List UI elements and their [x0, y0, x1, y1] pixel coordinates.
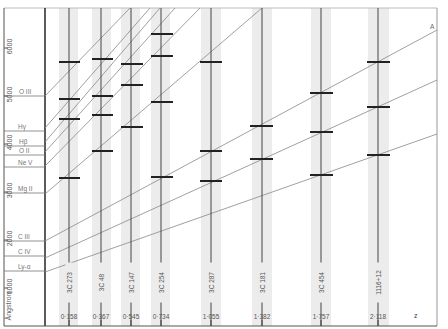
line-label-o-iii: O III — [19, 88, 31, 95]
x-axis-label: z — [414, 312, 418, 319]
quasar-name-3c48: 3C 48 — [98, 263, 105, 303]
y-tick-label-4000: 4000 — [6, 130, 13, 156]
line-tag-a: A — [430, 23, 434, 30]
quasar-name-1116-12: 1116+12 — [375, 263, 382, 303]
z-value-3c454: 1·757 — [306, 313, 336, 320]
line-label-h-gamma: Hγ — [18, 123, 26, 130]
line-label-mg-ii: Mg II — [18, 185, 32, 192]
z-value-3c147: 0·545 — [116, 313, 146, 320]
y-tick-label-5000: 5000 — [6, 82, 13, 108]
redshift-figure: 6000 5000 4000 3000 2000 1000 Ångstrom O… — [0, 0, 448, 329]
z-value-3c181: 1·382 — [247, 313, 277, 320]
y-tick-label-2000: 2000 — [6, 226, 13, 252]
quasar-name-3c454: 3C 454 — [318, 263, 325, 303]
quasar-name-3c181: 3C 181 — [259, 263, 266, 303]
quasar-name-3c254: 3C 254 — [158, 263, 165, 303]
z-value-1116-12: 2·118 — [363, 313, 393, 320]
quasar-name-3c273: 3C 273 — [66, 263, 73, 303]
y-tick-label-6000: 6000 — [6, 34, 13, 60]
line-label-c-iii: C III — [18, 233, 30, 240]
y-axis-label: Ångstrom — [5, 286, 12, 326]
line-label-h-beta: Hβ — [19, 138, 27, 145]
z-value-3c254: 0·734 — [146, 313, 176, 320]
quasar-name-3c147: 3C 147 — [128, 263, 135, 303]
line-label-ne-v: Ne V — [18, 159, 32, 166]
line-label-o-ii: O II — [19, 147, 29, 154]
z-value-3c287: 1·055 — [196, 313, 226, 320]
line-label-c-iv: C IV — [18, 248, 31, 255]
line-label-ly-alpha: Ly-α — [18, 263, 31, 270]
text-layer: 6000 5000 4000 3000 2000 1000 Ångstrom O… — [0, 0, 448, 329]
quasar-name-3c287: 3C 287 — [208, 263, 215, 303]
z-value-3c48: 0·367 — [86, 313, 116, 320]
z-value-3c273: 0·158 — [54, 313, 84, 320]
y-tick-label-3000: 3000 — [6, 178, 13, 204]
